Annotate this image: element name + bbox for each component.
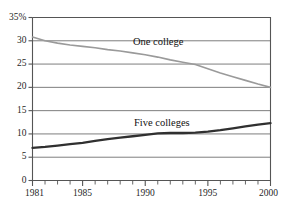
x-tick-label-1985: 1985 (73, 188, 92, 198)
y-tick-label-0: 0 (0, 176, 27, 186)
series-label-five-colleges: Five colleges (134, 117, 190, 128)
y-tick-label-25: 25 (0, 59, 27, 69)
x-tick-label-1981: 1981 (25, 188, 44, 198)
y-tick-label-10: 10 (0, 129, 27, 139)
y-tick-label-30: 30 (0, 36, 27, 46)
y-tick-label-5: 5 (0, 152, 27, 162)
plot-area (0, 0, 285, 208)
y-tick-label-35: 35% (0, 13, 27, 23)
x-tick-label-1995: 1995 (198, 188, 217, 198)
y-tick-label-20: 20 (0, 82, 27, 92)
line-chart: 05101520253035% 19811985199019952000 One… (0, 0, 285, 208)
series-label-one-college: One college (133, 36, 183, 47)
y-tick-label-15: 15 (0, 106, 27, 116)
x-tick-label-1990: 1990 (136, 188, 155, 198)
x-tick-label-2000: 2000 (259, 188, 278, 198)
